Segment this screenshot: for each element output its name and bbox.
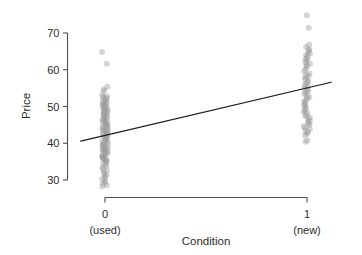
data-point — [302, 132, 308, 138]
x-tick-label-1: 1 — [304, 208, 310, 220]
data-points-layer — [99, 12, 313, 189]
y-tick-label-70: 70 — [47, 27, 59, 39]
y-tick-label-30: 30 — [47, 174, 59, 186]
data-point — [306, 25, 312, 31]
regression-line-layer — [81, 82, 331, 141]
plot-canvas: 3040506070 0(used)1(new) PriceCondition — [0, 0, 362, 255]
y-axis: 3040506070 — [47, 27, 67, 186]
scatter-plot-figure: 3040506070 0(used)1(new) PriceCondition — [0, 0, 362, 255]
x-axis-title: Condition — [182, 235, 231, 247]
x-axis: 0(used)1(new) — [89, 198, 320, 236]
axis-labels-layer: PriceCondition — [20, 93, 230, 247]
x-tick-sublabel-0: (used) — [89, 224, 120, 236]
data-point — [302, 139, 308, 145]
data-point — [99, 184, 105, 190]
y-tick-label-60: 60 — [47, 64, 59, 76]
data-point — [304, 12, 310, 18]
x-tick-label-0: 0 — [102, 208, 108, 220]
regression-line — [81, 82, 331, 141]
x-tick-sublabel-1: (new) — [293, 224, 321, 236]
x-axis-bracket — [105, 198, 307, 203]
data-point — [104, 61, 110, 67]
y-tick-label-50: 50 — [47, 101, 59, 113]
y-axis-title: Price — [20, 93, 32, 119]
y-tick-label-40: 40 — [47, 137, 59, 149]
data-point — [99, 49, 105, 55]
